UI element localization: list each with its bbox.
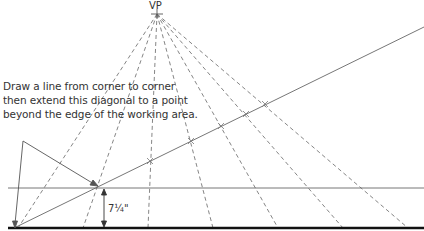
pointer-arrows [13, 141, 99, 228]
measurement-label: 7¼" [108, 203, 129, 214]
measurement-arrow [102, 189, 107, 227]
instruction-note: Draw a line from corner to corner then e… [3, 79, 198, 121]
vanishing-point-label: VP [149, 0, 162, 11]
instruction-line: then extend this diagonal to a point [3, 93, 198, 107]
instruction-line: Draw a line from corner to corner [3, 79, 198, 93]
instruction-line: beyond the edge of the working area. [3, 107, 198, 121]
perspective-rays [18, 14, 408, 228]
